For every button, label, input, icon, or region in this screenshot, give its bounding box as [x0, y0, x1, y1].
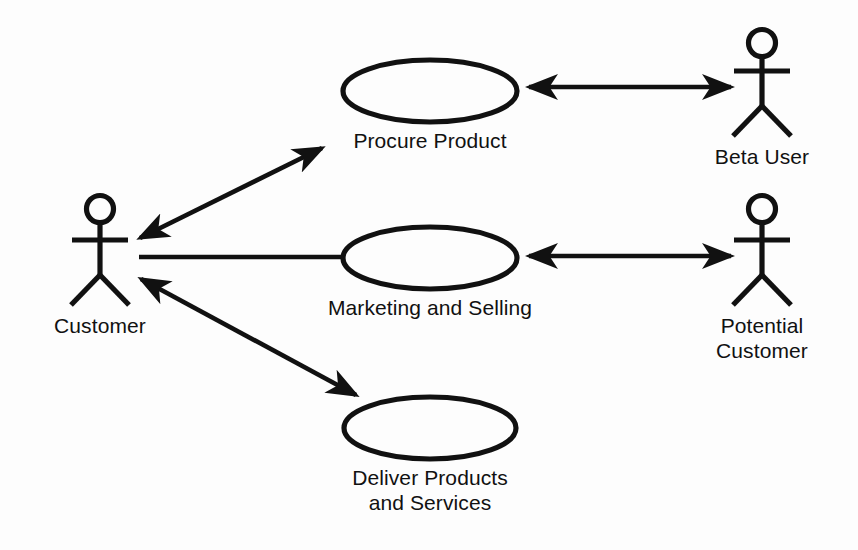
actor-figure-potential-customer[interactable]	[733, 196, 791, 306]
actor-leg-right-icon	[762, 275, 791, 305]
actor-figure-beta-user[interactable]	[733, 30, 791, 137]
actor-head-icon	[749, 30, 776, 57]
actor-leg-left-icon	[71, 275, 100, 305]
connection-customer-deliver-products[interactable]	[141, 279, 356, 395]
use-case-ellipse-deliver-products-and-services[interactable]	[344, 397, 516, 459]
actor-head-icon	[87, 196, 114, 223]
diagram-vector-layer	[0, 0, 858, 550]
use-case-diagram-canvas: Procure Product Marketing and Selling De…	[0, 0, 858, 550]
actor-head-icon	[749, 196, 776, 223]
use-case-ellipse-procure-product[interactable]	[343, 60, 517, 122]
connections-group	[139, 87, 731, 395]
use-cases-group	[343, 60, 517, 459]
actor-leg-right-icon	[762, 106, 791, 136]
actor-leg-left-icon	[733, 106, 762, 136]
connection-customer-procure-product[interactable]	[140, 148, 322, 238]
actor-leg-left-icon	[733, 275, 762, 305]
actor-figure-customer[interactable]	[71, 196, 129, 306]
actor-leg-right-icon	[100, 275, 129, 305]
use-case-ellipse-marketing-and-selling[interactable]	[343, 227, 517, 289]
